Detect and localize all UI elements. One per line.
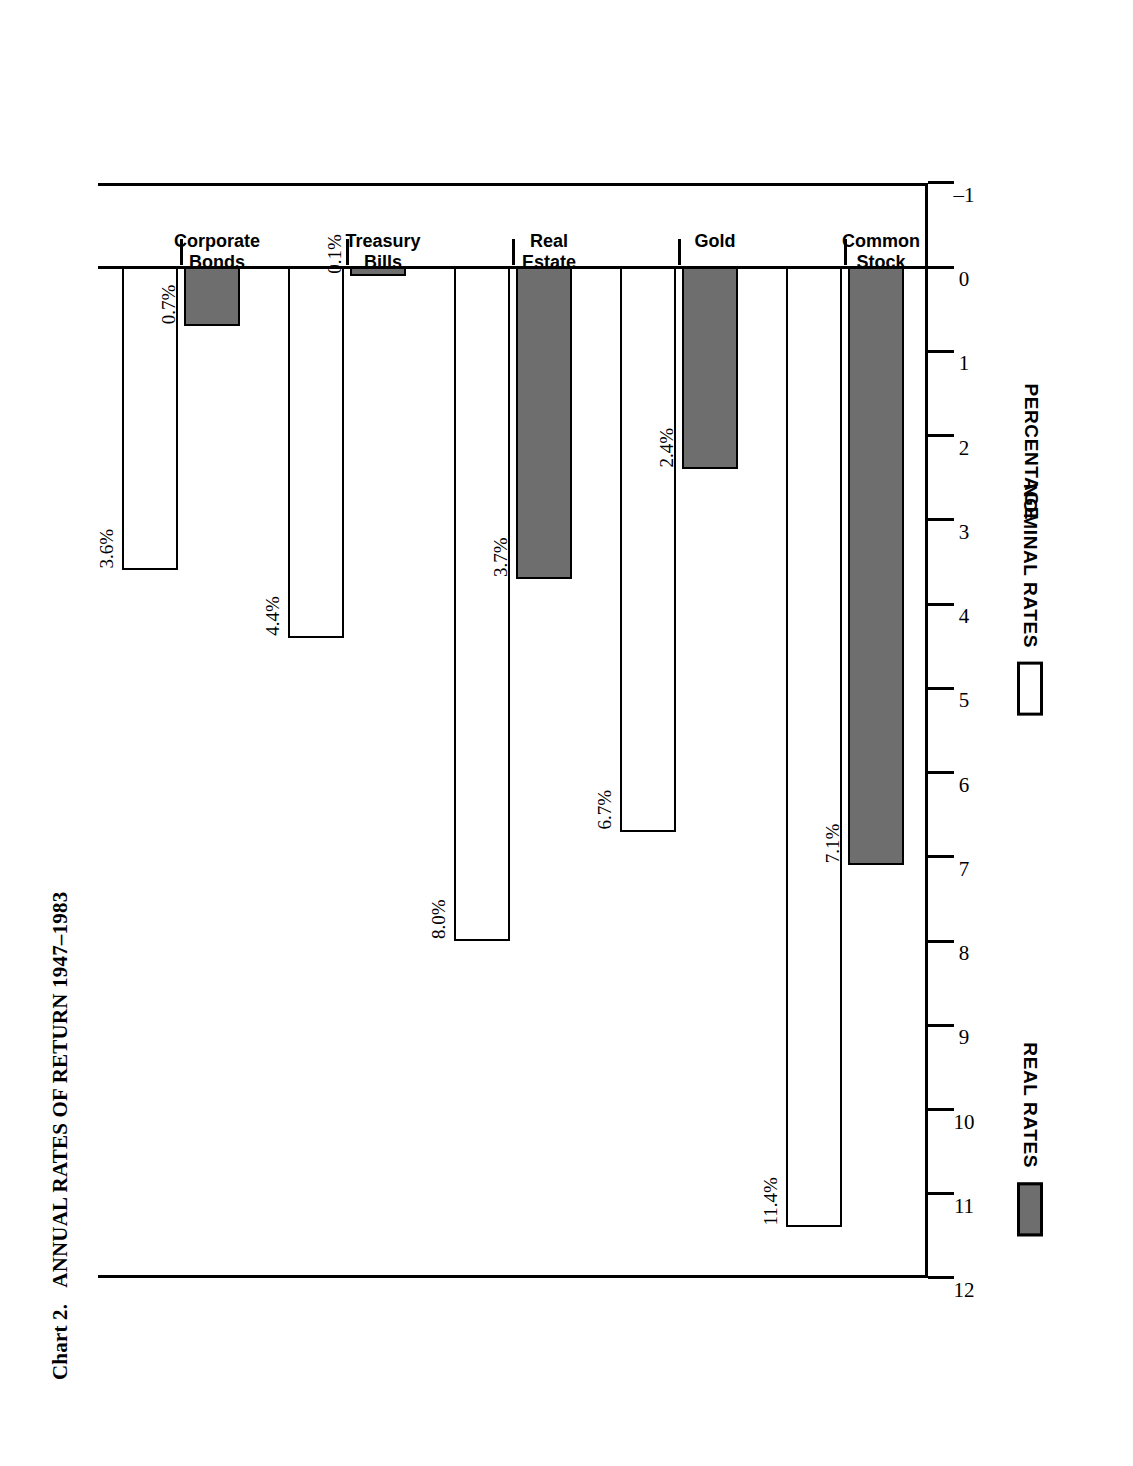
legend-item-nominal-rates: NOMINAL RATES [1017,484,1043,716]
legend-item-real-rates: REAL RATES [1017,1042,1043,1236]
value-tick-label-0: 0 [942,267,986,292]
rotated-figure-canvas: Chart 2.ANNUAL RATES OF RETURN 1947–1983… [42,68,1092,1398]
chart-title-text: ANNUAL RATES OF RETURN 1947–1983 [48,892,72,1288]
value-tick-label-2: 2 [942,436,986,461]
bar-value-label-nominal-1: 4.4% [262,596,284,636]
value-tick-label-9: 9 [942,1025,986,1050]
value-tick-label-6: 6 [942,773,986,798]
legend-swatch-nominal [1017,662,1043,716]
bar-value-label-real-2: 3.7% [490,537,512,577]
category-label-4: Common Stock [821,231,941,272]
category-label-0: Corporate Bonds [157,231,277,272]
value-tick-label-3: 3 [942,520,986,545]
chart-title-number: Chart 2. [48,1304,72,1380]
bar-value-label-nominal-4: 11.4% [760,1177,782,1225]
bar-real-2 [516,267,572,579]
plot-area: 3.6%0.7%4.4%0.1%8.0%3.7%6.7%2.4%11.4%7.1… [98,183,928,1278]
category-label-1: Treasury Bills [323,231,443,272]
value-tick-label-10: 10 [942,1110,986,1135]
axis-right-spine [98,183,928,186]
legend-label-nominal-rates: NOMINAL RATES [1019,484,1041,648]
value-tick-label-8: 8 [942,941,986,966]
bar-value-label-real-3: 2.4% [656,428,678,468]
legend-swatch-real [1017,1182,1043,1236]
value-axis-line [925,183,928,1278]
value-tick-label-7: 7 [942,857,986,882]
value-tick-label-4: 4 [942,604,986,629]
chart-title: Chart 2.ANNUAL RATES OF RETURN 1947–1983 [48,892,73,1380]
value-tick-label-12: 12 [942,1278,986,1303]
bar-nominal-1 [288,267,344,638]
legend-label-real-rates: REAL RATES [1019,1042,1041,1168]
bar-value-label-nominal-3: 6.7% [594,790,616,830]
value-tick-label-5: 5 [942,688,986,713]
value-tick-label-11: 11 [942,1194,986,1219]
bar-nominal-4 [786,267,842,1227]
category-label-3: Gold [655,231,775,252]
bar-value-label-real-0: 0.7% [158,285,180,325]
axis-left-spine [98,1275,928,1278]
bar-real-0 [184,267,240,326]
category-label-2: Real Estate [489,231,609,272]
value-tick-label--1: –1 [942,183,986,208]
value-tick-label-1: 1 [942,351,986,376]
bar-value-label-nominal-2: 8.0% [428,900,450,940]
bar-real-3 [682,267,738,469]
bar-nominal-3 [620,267,676,831]
bar-real-4 [848,267,904,865]
bar-value-label-nominal-0: 3.6% [96,529,118,569]
chart-legend: REAL RATESNOMINAL RATES [1017,186,1061,1276]
bar-value-label-real-4: 7.1% [822,824,844,864]
bar-nominal-2 [454,267,510,941]
